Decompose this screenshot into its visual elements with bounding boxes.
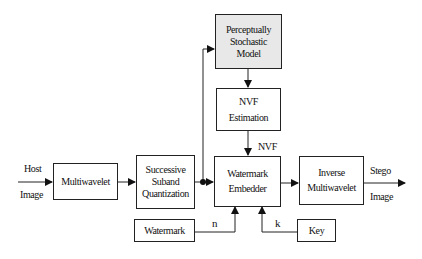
nvf-label-line1: NVF [239,96,258,108]
k-signal-label: k [275,218,280,229]
psm-label-line2: Stochastic [230,36,267,48]
embedder-label-line2: Embedder [229,183,267,195]
nvf-estimation-block: NVF Estimation [216,88,281,131]
connector-layer [0,0,422,259]
junction-dot [200,179,206,185]
psm-label-line3: Model [236,48,260,60]
perceptual-model-block: Perceptually Stochastic Model [215,14,282,69]
psm-label-line1: Perceptually [226,24,271,36]
multiwavelet-label: Multiwavelet [61,176,110,188]
host-label: Host [24,163,41,174]
inverse-multiwavelet-block: Inverse Multiwavelet [299,156,364,205]
n-signal-label: n [212,218,217,229]
stego-label: Stego [370,165,391,176]
quantization-label-line3: Quantization [142,188,189,200]
inverse-label-line2: Multiwavelet [307,182,356,194]
quantization-block: Successive Suband Quantization [136,155,195,209]
watermark-embedder-block: Watermark Embedder [214,156,281,207]
nvf-signal-label: NVF [258,141,277,152]
inverse-label-line1: Inverse [318,167,345,179]
host-image-label: Image [20,189,43,200]
key-label: Key [309,225,324,237]
stego-image-label: Image [370,191,393,202]
embedder-label-line1: Watermark [227,168,268,180]
watermark-label: Watermark [144,225,185,237]
quantization-label-line2: Suband [152,176,180,188]
watermark-block: Watermark [134,219,195,242]
nvf-label-line2: Estimation [229,112,268,124]
multiwavelet-block: Multiwavelet [53,163,118,200]
quantization-label-line1: Successive [146,164,186,176]
key-block: Key [297,219,336,242]
